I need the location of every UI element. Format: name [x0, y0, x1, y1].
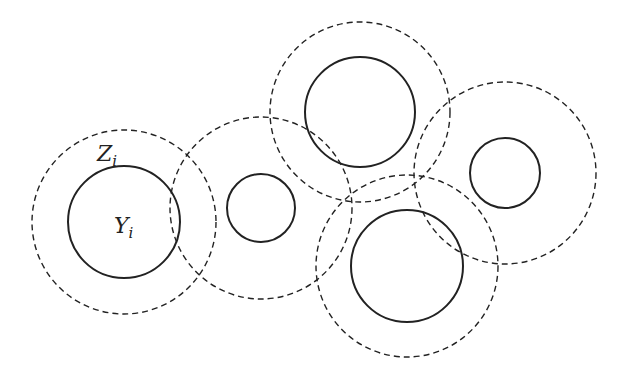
circle-pair-4 [316, 175, 498, 357]
inner-solid-circle [470, 138, 540, 208]
inner-solid-circle [305, 57, 415, 167]
outer-dashed-circle [170, 117, 352, 299]
label-y-i: Yi [114, 213, 134, 242]
circle-pair-3 [270, 22, 450, 202]
outer-dashed-circle [270, 22, 450, 202]
circle-pair-5 [414, 82, 596, 264]
outer-dashed-circle [414, 82, 596, 264]
circle-pair-2 [170, 117, 352, 299]
nested-circles-diagram: ZiYi [0, 0, 618, 375]
inner-solid-circle [351, 210, 463, 322]
outer-dashed-circle [316, 175, 498, 357]
diagram-canvas: ZiYi [0, 0, 618, 375]
inner-solid-circle [227, 174, 295, 242]
label-z-i: Zi [96, 141, 117, 170]
